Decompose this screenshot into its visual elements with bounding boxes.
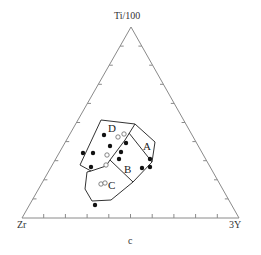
field-label-b: B xyxy=(124,164,131,175)
field-label-d: D xyxy=(108,123,116,134)
vertex-label-bottom-left: Zr xyxy=(17,220,26,230)
figure-caption: c xyxy=(128,236,132,246)
field-label-c: C xyxy=(108,180,115,191)
ternary-triangle xyxy=(22,27,239,218)
vertex-label-top: Ti/100 xyxy=(114,11,140,21)
field-label-a: A xyxy=(143,141,151,152)
vertex-label-bottom-right: 3Y xyxy=(229,220,241,230)
ternary-diagram xyxy=(0,0,261,255)
bottom-axis-ticks xyxy=(44,214,218,218)
